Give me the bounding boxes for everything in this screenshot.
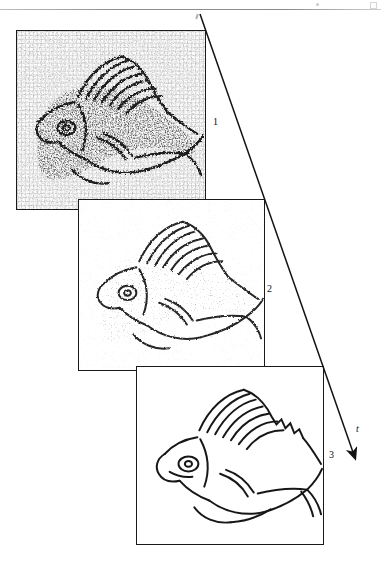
page-top-rule [0, 9, 381, 10]
scan-artifact-icon [316, 3, 319, 6]
scan-artifact-icon [370, 2, 377, 9]
figure-panel-1 [16, 30, 206, 210]
figure-root: 1 2 3 t [0, 0, 381, 562]
figure-panel-3 [136, 366, 324, 545]
fish-illustration-stage-3 [137, 367, 323, 544]
panel-label-2: 2 [267, 284, 272, 294]
time-axis-label: t [356, 424, 359, 434]
figure-panel-2 [78, 199, 265, 371]
fish-illustration-stage-1 [17, 31, 205, 209]
panel-label-1: 1 [213, 117, 218, 127]
fish-illustration-stage-2 [79, 200, 264, 370]
panel-label-3: 3 [329, 450, 334, 460]
scan-artifact-icon [195, 14, 198, 19]
